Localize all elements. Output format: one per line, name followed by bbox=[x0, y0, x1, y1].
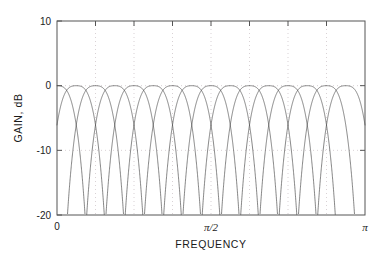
filter-bank-response-chart: 10 0 -10 -20 0 π/2 π FREQUENCY GAIN, dB bbox=[0, 0, 386, 258]
x-tick-label-pi-over-2: π/2 bbox=[204, 221, 219, 233]
y-tick-label-neg20: -20 bbox=[37, 210, 52, 221]
y-tick-label-10: 10 bbox=[40, 16, 52, 27]
x-tick-label-pi: π bbox=[362, 221, 368, 233]
x-axis-title: FREQUENCY bbox=[175, 238, 246, 250]
plot-background bbox=[57, 21, 365, 215]
y-tick-label-0: 0 bbox=[45, 80, 51, 91]
y-axis-title: GAIN, dB bbox=[12, 93, 24, 142]
y-tick-label-neg10: -10 bbox=[37, 145, 52, 156]
figure-container: 10 0 -10 -20 0 π/2 π FREQUENCY GAIN, dB bbox=[0, 0, 386, 258]
x-tick-label-zero: 0 bbox=[54, 221, 60, 232]
